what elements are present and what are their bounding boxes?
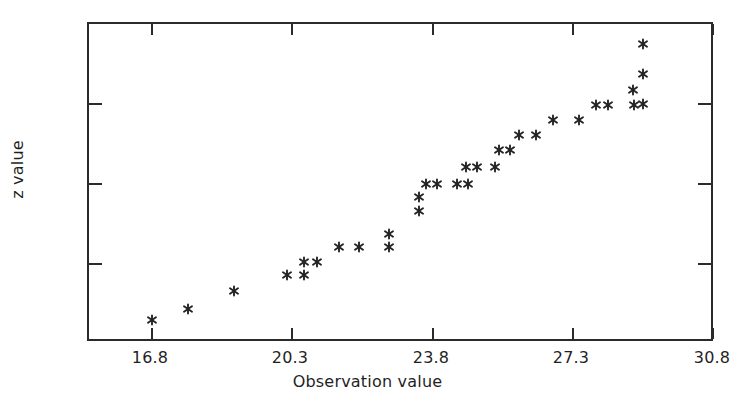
data-points-layer	[89, 24, 711, 339]
data-point	[471, 161, 483, 173]
data-point	[353, 241, 365, 253]
data-point	[493, 144, 505, 156]
data-point	[627, 84, 639, 96]
data-point	[182, 303, 194, 315]
data-point	[628, 99, 640, 111]
data-point	[637, 98, 649, 110]
data-point	[383, 228, 395, 240]
data-point	[602, 99, 614, 111]
data-point	[590, 99, 602, 111]
data-point	[420, 178, 432, 190]
x-tick-label-23.8: 23.8	[396, 348, 466, 367]
data-point	[637, 38, 649, 50]
x-tick-label-30.8: 30.8	[677, 348, 735, 367]
data-point	[228, 285, 240, 297]
data-point	[298, 256, 310, 268]
data-point	[489, 161, 501, 173]
x-tick-top-30.8	[712, 24, 714, 35]
scatter-plot-figure: 2.3 1.2 0.0 -1.2 -2.3 16.8 20.3 23.8 27.…	[0, 0, 735, 402]
data-point	[298, 269, 310, 281]
y-axis-title: z value	[8, 90, 27, 250]
data-point	[462, 178, 474, 190]
data-point	[573, 114, 585, 126]
data-point	[637, 68, 649, 80]
x-tick-label-16.8: 16.8	[115, 348, 185, 367]
data-point	[413, 191, 425, 203]
x-tick-label-27.3: 27.3	[536, 348, 606, 367]
data-point	[413, 205, 425, 217]
data-point	[530, 129, 542, 141]
x-tick-label-20.3: 20.3	[255, 348, 325, 367]
data-point	[451, 178, 463, 190]
data-point	[146, 314, 158, 326]
data-point	[431, 178, 443, 190]
data-point	[504, 144, 516, 156]
data-point	[311, 256, 323, 268]
x-axis-title: Observation value	[0, 372, 735, 391]
data-point	[383, 241, 395, 253]
x-tick-bottom-30.8	[712, 328, 714, 339]
data-point	[547, 114, 559, 126]
data-point	[333, 241, 345, 253]
data-point	[460, 161, 472, 173]
data-point	[513, 129, 525, 141]
plot-frame	[87, 22, 713, 341]
data-point	[281, 269, 293, 281]
